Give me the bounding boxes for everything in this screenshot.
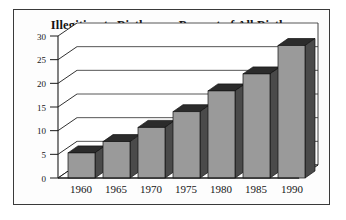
x-tick-label-1960: 1960 <box>70 183 93 195</box>
y-tick-label-20: 20 <box>37 79 47 89</box>
x-tick-label-1990: 1990 <box>281 183 304 195</box>
bar-1965 <box>103 135 140 178</box>
y-tick-label-5: 5 <box>42 150 47 160</box>
x-tick-label-1985: 1985 <box>245 183 268 195</box>
y-tick-label-0: 0 <box>42 174 47 184</box>
y-tick-label-25: 25 <box>37 55 47 65</box>
x-tick-label-1980: 1980 <box>210 183 233 195</box>
y-tick-label-30: 30 <box>37 32 47 42</box>
bar-1985 <box>243 67 280 178</box>
chart-figure: Illegitimate Births as a Percent of All … <box>0 0 346 220</box>
bar-1975 <box>173 105 210 178</box>
bar-1990 <box>278 39 315 179</box>
x-tick-label-1965: 1965 <box>105 183 128 195</box>
y-tick-label-15: 15 <box>37 103 47 113</box>
x-tick-label-1970: 1970 <box>140 183 163 195</box>
bar-1960 <box>68 146 105 178</box>
bar-1980 <box>208 84 245 178</box>
bar-chart-svg: Illegitimate Births as a Percent of All … <box>14 10 329 204</box>
x-tick-label-1975: 1975 <box>175 183 198 195</box>
bar-1970 <box>138 120 175 178</box>
chart-frame-border: Illegitimate Births as a Percent of All … <box>13 9 330 205</box>
y-tick-label-10: 10 <box>37 126 47 136</box>
